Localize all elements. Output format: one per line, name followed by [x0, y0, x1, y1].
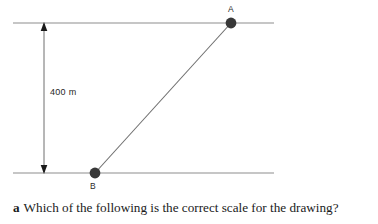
- dimension-label: 400 m: [50, 88, 77, 97]
- scale-drawing-figure: A B 400 m: [0, 0, 378, 196]
- point-marker-b: [90, 168, 101, 179]
- question-letter: a: [13, 200, 20, 215]
- question-text: Which of the following is the correct sc…: [24, 200, 339, 215]
- question-line: aWhich of the following is the correct s…: [13, 200, 373, 215]
- line-segment-ab: [95, 23, 231, 173]
- point-marker-a: [226, 18, 237, 29]
- figure-canvas: [0, 0, 378, 196]
- point-label-b: B: [90, 182, 96, 191]
- worksheet-page: A B 400 m aWhich of the following is the…: [0, 0, 378, 224]
- point-label-a: A: [228, 5, 234, 14]
